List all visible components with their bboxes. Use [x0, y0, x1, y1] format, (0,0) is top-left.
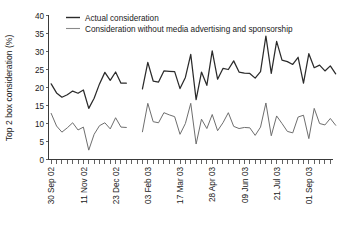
series-line-without-media-segment-0	[51, 113, 126, 150]
y-axis-tick-labels: 0510152025303540	[35, 12, 45, 165]
y-tick-label: 5	[39, 138, 44, 147]
x-tick-label: 11 Nov 02	[80, 167, 89, 204]
series-line-actual-consideration-segment-0	[51, 72, 126, 108]
series-lines	[51, 36, 336, 150]
y-axis-title: Top 2 box consideration (%)	[4, 35, 14, 142]
x-tick-label: 21 Jul 03	[273, 167, 282, 201]
legend: Actual consideration Consideration witho…	[66, 14, 293, 34]
x-tick-label: 30 Sep 02	[47, 167, 56, 205]
y-tick-label: 30	[35, 48, 45, 57]
series-line-without-media-segment-1	[142, 103, 335, 144]
x-axis-ticks	[51, 160, 330, 164]
x-tick-label: 01 Sep 03	[305, 167, 314, 205]
y-tick-label: 35	[35, 30, 45, 39]
y-tick-label: 10	[35, 120, 45, 129]
y-tick-label: 15	[35, 102, 45, 111]
x-tick-label: 17 Mar 03	[176, 167, 185, 204]
y-tick-label: 20	[35, 84, 45, 93]
x-tick-label: 03 Feb 03	[144, 167, 153, 204]
legend-label-actual-consideration: Actual consideration	[85, 14, 159, 23]
line-chart: Top 2 box consideration (%) 051015202530…	[0, 0, 343, 233]
x-tick-label: 23 Dec 02	[112, 167, 121, 205]
y-tick-label: 0	[39, 156, 44, 165]
x-tick-label: 09 Jun 03	[241, 167, 250, 203]
legend-label-without-media: Consideration without media advertising …	[85, 25, 293, 34]
series-line-actual-consideration-segment-1	[142, 36, 335, 100]
x-axis-tick-labels: 30 Sep 0211 Nov 0223 Dec 0203 Feb 0317 M…	[47, 167, 314, 205]
y-tick-label: 40	[35, 12, 45, 21]
y-tick-label: 25	[35, 66, 45, 75]
x-tick-label: 28 Apr 03	[208, 167, 217, 202]
chart-container: Top 2 box consideration (%) 051015202530…	[0, 0, 343, 233]
